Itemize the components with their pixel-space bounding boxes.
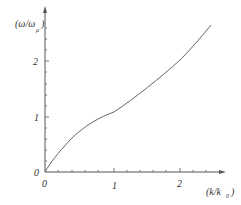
svg-text:μ: μ [36,27,39,33]
y-tick-1: 1 [34,112,39,123]
x-axis-label: (k/k 0 ) [206,186,235,199]
x-axis [45,168,226,174]
svg-text:0: 0 [226,193,229,199]
dispersion-curve [45,25,211,172]
svg-text:(ω/ω: (ω/ω [15,18,35,30]
y-axis [43,6,49,172]
svg-text:): ) [40,18,45,30]
y-axis-label: (ω/ω μ ) [15,18,45,33]
svg-text:(k/k: (k/k [206,186,222,198]
x-axis-arrow-icon [219,170,226,174]
svg-text:): ) [230,186,235,198]
x-tick-2: 2 [177,178,182,189]
chart: 0 1 2 0 1 2 (ω/ω μ ) (k/k 0 ) [0,0,241,205]
x-tick-1: 1 [112,180,117,191]
y-tick-2: 2 [33,56,38,67]
y-tick-0: 0 [34,167,39,178]
x-tick-0: 0 [42,178,47,189]
y-axis-arrow-icon [43,6,47,13]
